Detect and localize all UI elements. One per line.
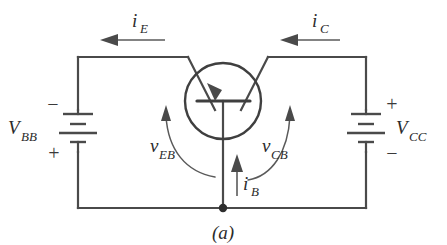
emitter-base-voltage-subscript: EB bbox=[158, 147, 175, 162]
figure-container: − + V BB + − V CC i E i C i B v EB v CB … bbox=[0, 0, 447, 245]
base-node-junction-dot bbox=[219, 204, 227, 212]
collector-current-symbol: i bbox=[312, 10, 317, 31]
emitter-current-arrowhead-icon bbox=[100, 34, 118, 46]
right-source-top-sign: + bbox=[386, 93, 397, 115]
collector-base-voltage-subscript: CB bbox=[271, 147, 288, 162]
collector-current-subscript: C bbox=[320, 21, 329, 36]
emitter-base-voltage-arrowhead-icon bbox=[161, 105, 171, 121]
left-source-bottom-sign: + bbox=[48, 142, 59, 164]
left-source-symbol: V bbox=[8, 117, 22, 138]
base-current-subscript: B bbox=[251, 184, 259, 199]
emitter-current-subscript: E bbox=[139, 21, 148, 36]
collector-base-voltage-symbol: v bbox=[262, 135, 271, 156]
left-source-top-sign: − bbox=[47, 93, 58, 115]
emitter-base-voltage-symbol: v bbox=[150, 135, 159, 156]
collector-base-voltage-arrowhead-icon bbox=[285, 105, 295, 121]
emitter-current-symbol: i bbox=[132, 10, 137, 31]
right-source-bottom-sign: − bbox=[386, 142, 397, 164]
transistor-circuit-diagram: − + V BB + − V CC i E i C i B v EB v CB … bbox=[0, 0, 447, 245]
left-source-subscript: BB bbox=[21, 129, 37, 144]
base-current-arrowhead-icon bbox=[231, 154, 243, 172]
right-source-subscript: CC bbox=[409, 129, 427, 144]
figure-caption: (a) bbox=[212, 222, 234, 244]
base-current-symbol: i bbox=[243, 173, 248, 194]
collector-current-arrowhead-icon bbox=[280, 34, 298, 46]
right-source-symbol: V bbox=[396, 117, 410, 138]
